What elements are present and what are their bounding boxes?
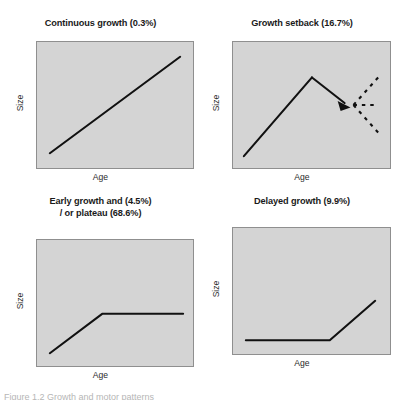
plot-area-early-growth-plateau (36, 239, 194, 367)
plot-svg-growth-setback (233, 42, 390, 168)
panel-early-growth-plateau: Early growth and (4.5%) / or plateau (68… (0, 192, 201, 382)
plot-svg-delayed-growth (233, 228, 390, 354)
panel-delayed-growth: Delayed growth (9.9%) Size Age (201, 192, 403, 382)
line-continuous-growth (50, 57, 180, 153)
panel-title-continuous-growth: Continuous growth (0.3%) (0, 18, 201, 30)
x-axis-label-early-growth-plateau: Age (0, 370, 201, 380)
y-axis-label-growth-setback: Size (211, 86, 221, 120)
y-axis-label-continuous-growth: Size (15, 86, 25, 120)
plot-svg-continuous-growth (37, 42, 193, 168)
x-axis-label-continuous-growth: Age (0, 172, 201, 182)
dashed-projection-down (353, 105, 378, 133)
plot-area-growth-setback (232, 41, 391, 169)
panel-title-early-growth-plateau: Early growth and (4.5%) / or plateau (68… (0, 196, 201, 219)
x-axis-label-delayed-growth: Age (201, 358, 403, 368)
y-axis-label-delayed-growth: Size (211, 272, 221, 306)
growth-patterns-figure: Continuous growth (0.3%) Size Age Growth… (0, 0, 403, 400)
figure-caption: Figure 1.2 Growth and motor patterns (4, 391, 399, 400)
panel-growth-setback: Growth setback (16.7%) Size Age (201, 12, 403, 190)
panel-title-delayed-growth: Delayed growth (9.9%) (201, 196, 403, 208)
line-growth-setback-decline (312, 77, 345, 103)
line-growth-rise (244, 77, 312, 156)
line-delayed-growth (246, 301, 375, 340)
plot-area-delayed-growth (232, 227, 391, 355)
panel-continuous-growth: Continuous growth (0.3%) Size Age (0, 12, 201, 190)
plot-area-continuous-growth (36, 41, 194, 169)
dashed-projection-up (353, 77, 378, 105)
line-early-growth-plateau (50, 314, 183, 353)
panel-title-growth-setback: Growth setback (16.7%) (201, 18, 403, 30)
x-axis-label-growth-setback: Age (201, 172, 403, 182)
y-axis-label-early-growth-plateau: Size (15, 284, 25, 318)
plot-svg-early-growth-plateau (37, 240, 193, 366)
